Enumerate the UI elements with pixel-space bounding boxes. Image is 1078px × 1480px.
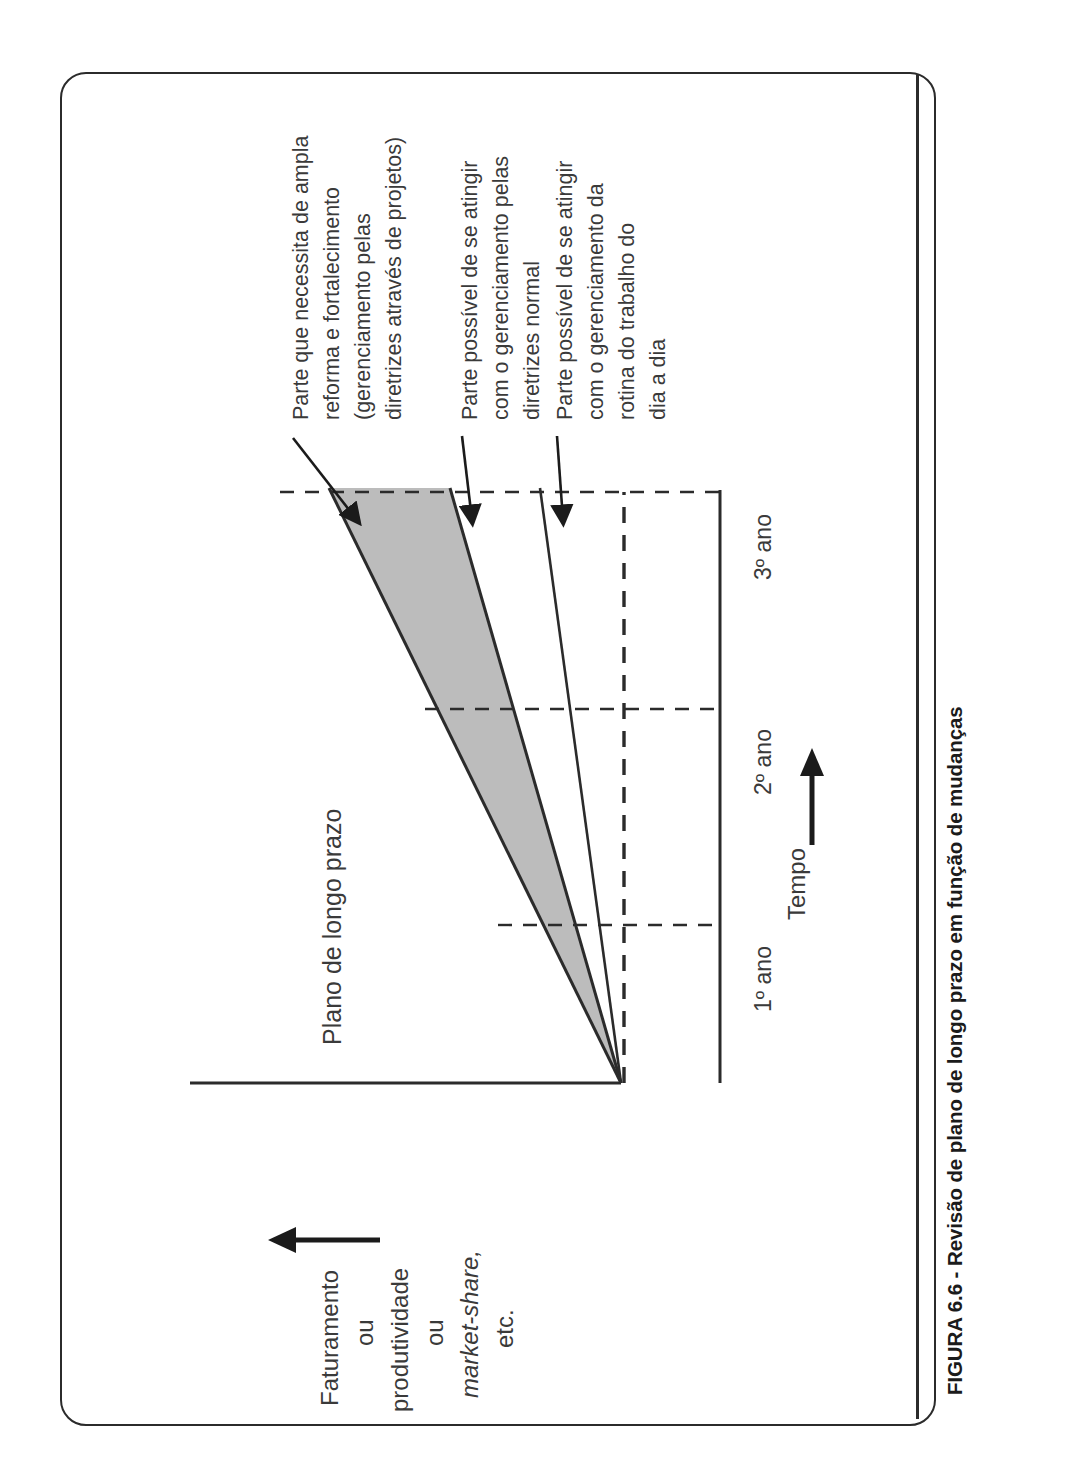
tick-label-2-ano: 2º ano bbox=[750, 729, 777, 795]
y-axis-label-line: ou bbox=[418, 1319, 452, 1346]
x-axis-label: Tempo bbox=[783, 848, 811, 920]
x-axis-arrow-head bbox=[800, 748, 824, 776]
annotation-line: diretrizes normal bbox=[517, 156, 548, 420]
annotation-line: Parte possível de se atingir bbox=[455, 156, 486, 420]
leader-arrow-2 bbox=[462, 436, 472, 520]
y-axis-label-line: Faturamento bbox=[313, 1270, 347, 1406]
annotation-middle-band: Parte possível de se atingir com o geren… bbox=[455, 156, 548, 420]
annotation-lower-band: Parte possível de se atingir com o geren… bbox=[550, 161, 674, 420]
plan-label: Plano de longo prazo bbox=[318, 809, 347, 1045]
figure-page: Parte que necessita de ampla reforma e f… bbox=[0, 0, 1078, 1480]
tick-label-1-ano: 1º ano bbox=[750, 946, 777, 1012]
figure-caption: FIGURA 6.6 - Revisão de plano de longo p… bbox=[943, 706, 967, 1395]
annotation-line: (gerenciamento pelas bbox=[348, 136, 379, 420]
annotation-upper-wedge: Parte que necessita de ampla reforma e f… bbox=[286, 136, 410, 420]
annotation-line: com o gerenciamento da bbox=[581, 161, 612, 420]
leader-arrow-3 bbox=[557, 436, 563, 520]
y-axis-label-line: ou bbox=[348, 1319, 382, 1346]
leader-arrow-1 bbox=[293, 438, 357, 520]
y-axis-label-line: produtividade bbox=[383, 1268, 417, 1412]
annotation-line: Parte que necessita de ampla bbox=[286, 136, 317, 420]
annotation-line: diretrizes através de projetos) bbox=[379, 136, 410, 420]
annotation-line: com o gerenciamento pelas bbox=[486, 156, 517, 420]
annotation-line: dia a dia bbox=[643, 161, 674, 420]
y-axis-label-line: market-share, bbox=[453, 1250, 487, 1398]
annotation-line: reforma e fortalecimento bbox=[317, 136, 348, 420]
tick-label-3-ano: 3º ano bbox=[750, 514, 777, 580]
annotation-line: Parte possível de se atingir bbox=[550, 161, 581, 420]
y-axis-arrow-head bbox=[268, 1227, 296, 1253]
y-axis-label-line: etc. bbox=[488, 1309, 522, 1348]
annotation-line: rotina do trabalho do bbox=[612, 161, 643, 420]
